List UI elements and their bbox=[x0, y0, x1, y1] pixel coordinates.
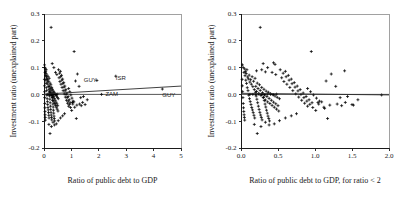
scatter-point bbox=[49, 132, 52, 135]
scatter-point bbox=[266, 100, 269, 103]
scatter-point bbox=[243, 116, 246, 119]
scatter-point bbox=[47, 108, 50, 111]
scatter-point bbox=[86, 98, 89, 101]
scatter-point bbox=[254, 77, 257, 80]
point-annotation-label: GUY bbox=[84, 77, 97, 83]
scatter-point bbox=[80, 104, 83, 107]
scatter-point bbox=[46, 103, 49, 106]
scatter-point bbox=[43, 84, 46, 87]
x-tick-label: 0.5 bbox=[274, 152, 283, 160]
plot-frame bbox=[44, 14, 181, 148]
scatter-point bbox=[251, 85, 254, 88]
scatter-point bbox=[256, 132, 259, 135]
scatter-point bbox=[288, 86, 291, 89]
scatter-point bbox=[264, 121, 267, 124]
x-tick-label: 1.0 bbox=[311, 152, 320, 160]
scatter-point bbox=[73, 106, 76, 109]
scatter-point bbox=[242, 110, 245, 113]
scatter-point bbox=[243, 113, 246, 116]
scatter-point bbox=[79, 96, 82, 99]
scatter-point bbox=[100, 93, 103, 96]
scatter-point bbox=[252, 80, 255, 83]
scatter-point bbox=[246, 86, 249, 89]
scatter-point bbox=[268, 123, 271, 126]
scatter-series bbox=[241, 26, 383, 135]
scatter-point bbox=[82, 95, 85, 98]
y-axis-title: Investment ratio (unexplained part) bbox=[9, 24, 18, 137]
scatter-point bbox=[257, 105, 260, 108]
scatter-point bbox=[252, 111, 255, 114]
scatter-point bbox=[256, 82, 259, 85]
scatter-point bbox=[311, 101, 314, 104]
scatter-point bbox=[74, 80, 77, 83]
scatter-point bbox=[271, 104, 274, 107]
y-tick-label: 0.0 bbox=[228, 91, 237, 99]
y-tick-label: 0.2 bbox=[228, 37, 237, 45]
scatter-point bbox=[310, 50, 313, 53]
point-annotation-label: GUY bbox=[162, 92, 175, 98]
point-annotation-label: ZAM bbox=[105, 91, 118, 97]
scatter-point bbox=[290, 114, 293, 117]
scatter-point bbox=[262, 88, 265, 91]
y-tick-label: 0.0 bbox=[31, 91, 40, 99]
scatter-point bbox=[274, 102, 277, 105]
x-tick-label: 2.0 bbox=[385, 152, 394, 160]
scatter-point bbox=[76, 73, 79, 76]
scatter-point bbox=[259, 89, 262, 92]
scatter-point bbox=[247, 89, 250, 92]
point-annotation-label: ISR bbox=[116, 75, 127, 81]
right-scatter-plot: -0.2-0.10.00.10.20.30.00.51.01.52.0Ratio… bbox=[200, 0, 401, 206]
y-tick-label: 0.1 bbox=[228, 64, 237, 72]
scatter-point bbox=[266, 66, 269, 69]
x-tick-label: 1 bbox=[70, 152, 74, 160]
scatter-point bbox=[284, 116, 287, 119]
scatter-point bbox=[258, 108, 261, 111]
scatter-point bbox=[306, 105, 309, 108]
scatter-point bbox=[334, 85, 337, 88]
x-tick-label: 0.0 bbox=[237, 152, 246, 160]
y-tick-label: -0.1 bbox=[28, 118, 40, 126]
scatter-point bbox=[346, 95, 349, 98]
scatter-point bbox=[84, 103, 87, 106]
scatter-point bbox=[264, 103, 267, 106]
scatter-point bbox=[64, 96, 67, 99]
scatter-point bbox=[344, 101, 347, 104]
scatter-point bbox=[326, 117, 329, 120]
scatter-point bbox=[262, 62, 265, 65]
x-tick-label: 4 bbox=[152, 152, 156, 160]
scatter-point bbox=[340, 104, 343, 107]
scatter-point bbox=[67, 87, 70, 90]
scatter-point bbox=[273, 106, 276, 109]
x-axis-title: Ratio of public debt to GDP, for ratio <… bbox=[249, 176, 381, 185]
scatter-point bbox=[282, 80, 285, 83]
scatter-point bbox=[356, 98, 359, 101]
scatter-point bbox=[306, 87, 309, 90]
scatter-point bbox=[265, 109, 268, 112]
scatter-point bbox=[48, 98, 51, 101]
scatter-point bbox=[272, 101, 275, 104]
scatter-point bbox=[277, 104, 280, 107]
scatter-point bbox=[49, 108, 52, 111]
scatter-point bbox=[285, 83, 288, 86]
scatter-point bbox=[303, 102, 306, 105]
scatter-point bbox=[260, 86, 263, 89]
scatter-point bbox=[309, 90, 312, 93]
scatter-point bbox=[249, 100, 252, 103]
scatter-point bbox=[59, 83, 62, 86]
scatter-point bbox=[275, 108, 278, 111]
scatter-point bbox=[274, 63, 277, 66]
scatter-point bbox=[259, 26, 262, 29]
x-tick-label: 0 bbox=[42, 152, 46, 160]
scatter-point bbox=[273, 122, 276, 125]
scatter-point bbox=[278, 119, 281, 122]
scatter-point bbox=[339, 96, 342, 99]
scatter-point bbox=[300, 99, 303, 102]
plot-axes bbox=[241, 14, 389, 148]
scatter-point bbox=[268, 102, 271, 105]
scatter-point bbox=[61, 114, 64, 117]
scatter-point bbox=[256, 101, 259, 104]
scatter-point bbox=[243, 119, 246, 122]
scatter-point bbox=[244, 79, 247, 82]
scatter-point bbox=[264, 70, 267, 73]
scatter-point bbox=[73, 50, 76, 53]
